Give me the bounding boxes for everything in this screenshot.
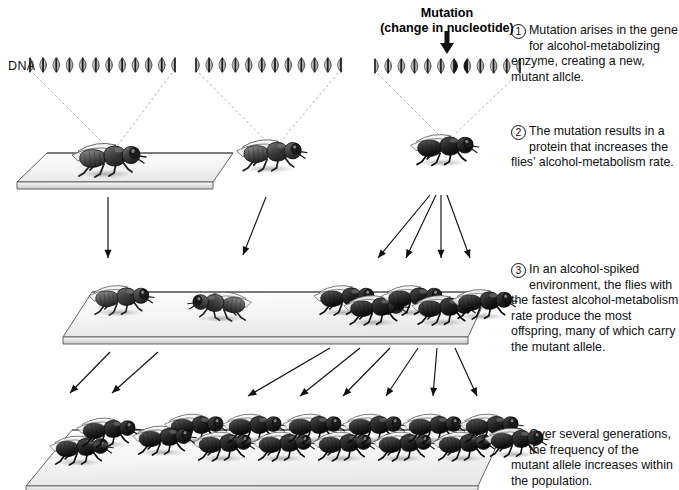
- dna-base-pair: [209, 58, 212, 72]
- dna-base-pair: [206, 58, 209, 72]
- dna-base-pair: [301, 58, 304, 72]
- dna-base-pair: [477, 59, 480, 73]
- fly-1-1: [62, 133, 148, 179]
- dna-base-pair: [245, 58, 248, 72]
- arrow-gen2-to-gen3-d: [300, 348, 360, 396]
- arrow-gen1-to-gen2-a: [104, 197, 111, 258]
- arrow-gen2-to-gen3-b: [112, 352, 158, 393]
- dna-base-pair: [285, 58, 288, 72]
- dna-base-pair: [66, 58, 69, 72]
- arrow-gen2-to-gen3-a: [70, 352, 110, 393]
- step-1-text: Mutation arises in the gene for alcohol-…: [511, 23, 679, 85]
- dna-base-pair: [490, 59, 493, 73]
- step-3-text: In an alcohol-spiked environment, the fl…: [511, 262, 679, 355]
- dna-base-pair: [149, 58, 152, 72]
- arrow-gen1-to-gen2-b: [243, 197, 266, 255]
- fly-1-2: [227, 130, 309, 174]
- dna-base-pair: [122, 58, 125, 72]
- dna-base-pair: [437, 59, 440, 73]
- dna-base-pair: [53, 58, 56, 72]
- step-1: 1 Mutation arises in the gene for alcoho…: [511, 23, 679, 85]
- dna-base-pair: [494, 59, 497, 73]
- dna-base-pair: [222, 58, 225, 72]
- arrow-gen1-to-gen2-c: [378, 195, 430, 258]
- fly-3-15: [476, 419, 550, 459]
- dna-base-pair: [162, 58, 165, 72]
- arrow-gen2-to-gen3-e: [343, 348, 390, 396]
- dna-base-pair: [375, 59, 378, 73]
- dna-base-pair: [40, 58, 43, 72]
- dna-base-pair: [92, 58, 95, 72]
- mutation-subtitle: (change in nucleotide): [367, 21, 527, 36]
- dna-base-pair: [503, 59, 506, 73]
- dna-base-pair: [135, 58, 138, 72]
- arrow-gen2-to-gen3-c: [248, 348, 330, 396]
- dna-base-pair: [424, 59, 427, 73]
- dna-base-pair: [311, 58, 314, 72]
- arrow-gen2-to-gen3-h: [455, 348, 477, 396]
- dna-base-pair: [480, 59, 483, 73]
- dna-base-pair: [109, 58, 112, 72]
- fly-2-2: [186, 283, 260, 323]
- step-2: 2 The mutation results in a protein that…: [511, 124, 679, 171]
- dna-base-pair: [441, 59, 444, 73]
- dna-base-pair: [275, 58, 278, 72]
- dna-base-pair: [401, 59, 404, 73]
- dna-base-pair: [79, 58, 82, 72]
- arrow-gen1-to-gen2-f: [447, 195, 470, 258]
- dna-base-pair: [338, 58, 341, 72]
- step-2-text: The mutation results in a protein that i…: [511, 124, 679, 171]
- dna-base-pair: [258, 58, 261, 72]
- mutation-callout: Mutation (change in nucleotide): [367, 6, 527, 36]
- dna-base-pair: [272, 58, 275, 72]
- dna-base-pair: [236, 58, 239, 72]
- dna-base-pair: [249, 58, 252, 72]
- dna-base-pair: [106, 58, 109, 72]
- fly-2-7: [443, 280, 519, 320]
- dna-base-pair: [324, 58, 327, 72]
- fly-3-14: [124, 417, 198, 457]
- dna-base-pair: [132, 58, 135, 72]
- dna-base-pair: [388, 59, 391, 73]
- dna-base-pair: [145, 58, 148, 72]
- arrow-gen2-to-gen3-f: [386, 348, 418, 396]
- dna-base-pair: [411, 59, 414, 73]
- fly-2-1: [80, 276, 156, 316]
- step-3: 3 In an alcohol-spiked environment, the …: [511, 262, 679, 355]
- dna-strand-middle: [196, 58, 341, 72]
- dna-base-pair: [219, 58, 222, 72]
- dna-strand-right: [375, 59, 520, 73]
- dna-base-pair: [451, 59, 454, 73]
- dna-base-pair: [398, 59, 401, 73]
- arrow-gen1-to-gen2-d: [406, 195, 436, 258]
- dna-base-pair: [428, 59, 431, 73]
- dna-base-pair: [232, 58, 235, 72]
- arrow-gen2-to-gen3-g: [430, 348, 437, 396]
- dna-base-pair: [172, 58, 175, 72]
- dna-base-pair: [467, 59, 470, 73]
- step-3-number: 3: [511, 263, 526, 278]
- dna-mutation-marker: [454, 59, 457, 73]
- dna-label: DNA: [8, 59, 36, 73]
- dna-base-pair: [119, 58, 122, 72]
- dna-base-pair: [70, 58, 73, 72]
- dna-base-pair: [507, 59, 510, 73]
- arrow-gen1-to-gen2-e: [437, 195, 444, 258]
- dna-mutation-marker: [464, 59, 467, 73]
- dna-base-pair: [315, 58, 318, 72]
- dna-base-pair: [262, 58, 265, 72]
- dna-base-pair: [415, 59, 418, 73]
- dna-base-pair: [288, 58, 291, 72]
- fly-1-3: [401, 125, 480, 167]
- dna-base-pair: [328, 58, 331, 72]
- dna-strand-left: [30, 58, 175, 72]
- dna-base-pair: [96, 58, 99, 72]
- mutation-title: Mutation: [367, 6, 527, 21]
- dna-base-pair: [43, 58, 46, 72]
- dna-base-pair: [298, 58, 301, 72]
- step-1-number: 1: [511, 24, 526, 39]
- dna-base-pair: [56, 58, 59, 72]
- dna-base-pair: [158, 58, 161, 72]
- dna-base-pair: [385, 59, 388, 73]
